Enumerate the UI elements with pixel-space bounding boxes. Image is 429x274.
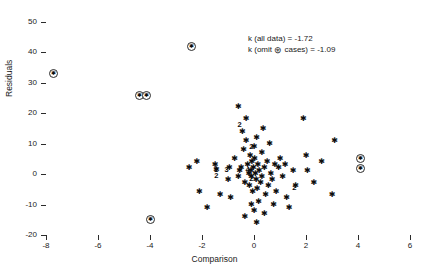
x-tick (202, 235, 203, 240)
data-point-asterisk (230, 154, 239, 163)
data-point-count-label: 3 (223, 166, 231, 174)
x-tick (98, 235, 99, 240)
data-point-asterisk (256, 178, 265, 187)
data-point-asterisk (203, 203, 212, 212)
data-point-asterisk (272, 187, 281, 196)
data-point-asterisk (192, 157, 201, 166)
data-point-asterisk (257, 172, 266, 181)
data-point-asterisk (282, 193, 291, 202)
data-point-asterisk (260, 163, 269, 172)
data-point-asterisk (255, 166, 264, 175)
data-point-asterisk (195, 187, 204, 196)
data-point-count-label: 2 (212, 172, 220, 180)
data-point-asterisk (234, 102, 243, 111)
x-tick (46, 235, 47, 240)
x-tick-label: 0 (242, 242, 266, 250)
x-tick (150, 235, 151, 240)
y-tick (41, 22, 46, 23)
x-tick-label: 6 (398, 242, 422, 250)
data-point-count-label: 2 (247, 175, 255, 183)
data-point-circled-asterisk (49, 69, 58, 78)
data-point-asterisk (289, 166, 298, 175)
data-point-asterisk (302, 151, 311, 160)
data-point-asterisk (257, 148, 266, 157)
data-point-asterisk (328, 190, 337, 199)
data-point-asterisk (270, 160, 279, 169)
data-point-asterisk (224, 175, 233, 184)
x-tick (410, 235, 411, 240)
data-point-asterisk (216, 190, 225, 199)
data-point-count-label: 2 (290, 184, 298, 192)
y-tick (41, 144, 46, 145)
annotation-omit-prefix: k (omit (248, 45, 274, 54)
data-point-count-label: 4 (244, 166, 252, 174)
data-point-asterisk (299, 114, 308, 123)
y-tick-label: -10 (7, 201, 37, 209)
data-point-asterisk (252, 133, 261, 142)
x-axis-label: Comparison (0, 255, 429, 264)
data-point-asterisk (259, 124, 268, 133)
data-point-asterisk (278, 172, 287, 181)
y-tick-label: -20 (7, 231, 37, 239)
data-point-asterisk (281, 160, 290, 169)
data-point-circled-asterisk (146, 215, 155, 224)
data-point-asterisk (265, 139, 274, 148)
data-point-circled-asterisk (187, 42, 196, 51)
y-tick (41, 205, 46, 206)
y-tick (41, 174, 46, 175)
data-point-circled-asterisk (356, 164, 365, 173)
data-point-circled-asterisk (356, 154, 365, 163)
annotation-block: k (all data) = -1.72 k (omit ⊛ cases) = … (248, 33, 335, 55)
x-tick-label: -2 (190, 242, 214, 250)
data-point-asterisk (252, 218, 261, 227)
data-point-circled-asterisk (142, 91, 151, 100)
x-tick-label: -6 (86, 242, 110, 250)
x-tick (306, 235, 307, 240)
data-point-asterisk (269, 200, 278, 209)
x-tick-label: 2 (294, 242, 318, 250)
data-point-asterisk (309, 178, 318, 187)
annotation-line-all-data: k (all data) = -1.72 (248, 33, 335, 44)
x-axis-line (0, 214, 365, 215)
data-point-asterisk (253, 160, 262, 169)
y-tick-label: 40 (7, 48, 37, 56)
y-tick-label: 20 (7, 109, 37, 117)
x-tick-label: 4 (346, 242, 370, 250)
data-point-asterisk (250, 154, 259, 163)
y-tick-label: 0 (7, 170, 37, 178)
data-point-asterisk (253, 184, 262, 193)
y-tick (41, 83, 46, 84)
y-tick-label: 10 (7, 140, 37, 148)
data-point-asterisk (263, 157, 272, 166)
data-point-asterisk (266, 169, 275, 178)
data-point-asterisk (246, 151, 255, 160)
data-point-asterisk (247, 200, 256, 209)
data-point-asterisk (261, 190, 270, 199)
data-point-asterisk (264, 181, 273, 190)
data-point-asterisk (234, 172, 243, 181)
x-tick-label: -4 (138, 242, 162, 250)
annotation-line-omit-cases: k (omit ⊛ cases) = -1.09 (248, 44, 335, 55)
annotation-omit-suffix: cases) = -1.09 (282, 45, 335, 54)
y-tick-label: 50 (7, 18, 37, 26)
x-tick (358, 235, 359, 240)
data-point-asterisk (185, 163, 194, 172)
data-point-asterisk (274, 163, 283, 172)
data-point-asterisk (317, 157, 326, 166)
data-point-asterisk (276, 154, 285, 163)
y-axis-label: Residuals (5, 60, 14, 97)
y-axis-line (0, 0, 1, 214)
x-tick-label: -8 (34, 242, 58, 250)
data-point-asterisk (330, 136, 339, 145)
y-tick (41, 113, 46, 114)
data-point-count-label: 2 (247, 143, 255, 151)
data-point-asterisk (285, 203, 294, 212)
scatter-plot-figure: -20-1001020304050 -8-6-4-20246 Residuals… (0, 0, 429, 274)
x-tick (254, 235, 255, 240)
data-point-asterisk (268, 175, 277, 184)
data-point-asterisk (254, 197, 263, 206)
y-tick (41, 52, 46, 53)
data-point-asterisk (303, 166, 312, 175)
data-point-count-label: 2 (236, 121, 244, 129)
data-point-asterisk (226, 193, 235, 202)
